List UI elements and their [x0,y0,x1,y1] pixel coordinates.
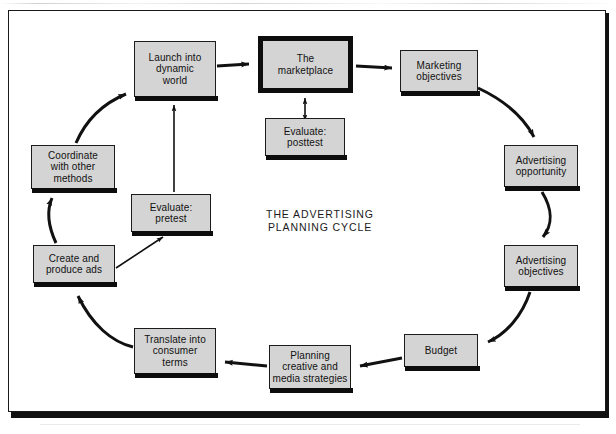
caption-line-1: THE ADVERTISING [266,208,374,220]
connector-advertising-opportunity-to-advertising-objectives [542,192,550,237]
connector-translate-to-create-ads [78,296,133,347]
node-the-marketplace[interactable]: Themarketplace [258,36,353,93]
connector-planning-strategies-to-translate [225,362,267,366]
connector-marketing-objectives-to-advertising-opportunity [478,88,534,137]
connector-marketplace-to-marketing-objectives [356,66,392,68]
node-label: Evaluate:posttest [282,126,329,149]
figure-caption: THE ADVERTISING PLANNING CYCLE [240,208,400,234]
node-label: Planningcreative andmedia strategies [271,350,350,385]
node-coordinate-with-other-methods[interactable]: Coordinatewith othermethods [31,145,115,189]
node-label: Advertisingopportunity [514,155,569,178]
node-label: Evaluate:pretest [148,202,195,225]
node-label: Translate intoconsumerterms [142,334,208,369]
node-label: Themarketplace [276,53,336,76]
node-launch-into-dynamic-world[interactable]: Launch intodynamicworld [134,41,216,97]
node-label: Launch intodynamicworld [147,52,204,87]
connector-create-ads-to-pretest [116,237,163,268]
node-create-and-produce-ads[interactable]: Create andproduce ads [33,245,115,283]
figure-page: Launch intodynamicworld Themarketplace M… [0,0,616,434]
node-advertising-opportunity[interactable]: Advertisingopportunity [504,145,578,187]
node-label: Coordinatewith othermethods [46,150,100,185]
caption-line-2: PLANNING CYCLE [268,221,372,233]
node-marketing-objectives[interactable]: Marketingobjectives [400,50,478,92]
node-translate-into-consumer-terms[interactable]: Translate intoconsumerterms [134,328,216,374]
node-label: Budget [423,345,459,357]
node-advertising-objectives[interactable]: Advertisingobjectives [504,245,578,287]
node-budget[interactable]: Budget [404,334,478,367]
node-label: Advertisingobjectives [514,255,569,278]
connector-launch-to-marketplace [217,64,249,66]
connector-coordinate-to-launch [76,94,126,143]
node-label: Marketingobjectives [414,60,463,83]
node-label: Create andproduce ads [44,253,104,276]
node-evaluate-pretest[interactable]: Evaluate:pretest [131,194,211,232]
node-evaluate-posttest[interactable]: Evaluate:posttest [265,118,345,156]
connector-create-ads-to-coordinate [49,198,56,243]
node-planning-creative-and-media-strategies[interactable]: Planningcreative andmedia strategies [269,345,351,389]
connector-budget-to-planning-strategies [360,358,402,366]
connector-advertising-objectives-to-budget [488,292,530,342]
